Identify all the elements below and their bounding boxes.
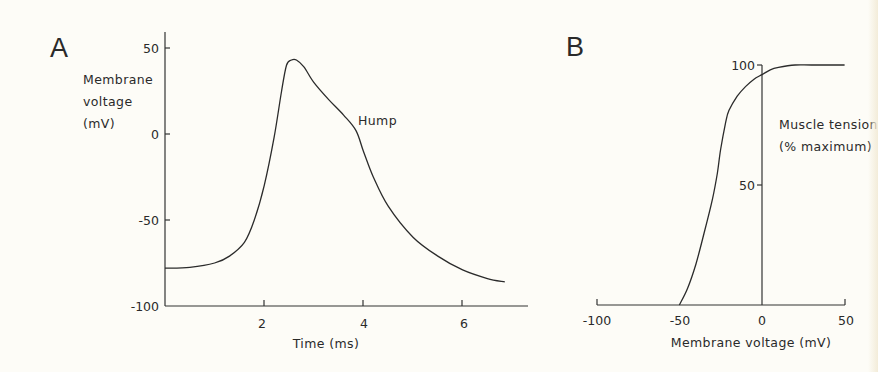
panel-b-letter: B: [566, 32, 584, 62]
panel-b-ytick-100: 100: [731, 58, 755, 73]
panel-a-xlabel: Time (ms): [292, 336, 360, 351]
panel-a-ytick-0: 0: [151, 127, 159, 142]
panel-b-ylabel: Muscle tension (% maximum): [779, 117, 878, 154]
panel-a-xtick-2: 2: [258, 316, 266, 331]
panel-a-ytick-50: 50: [143, 41, 159, 56]
panel-a-ylabel-line-3: (mV): [83, 116, 115, 131]
panel-a-letter: A: [50, 33, 68, 63]
panel-a-ylabel: Membrane voltage (mV): [83, 72, 153, 131]
panel-a-ytick-minus-100: -100: [131, 299, 159, 314]
panel-a-ytick-minus-50: -50: [139, 213, 159, 228]
panel-a-ylabel-line-1: Membrane: [83, 72, 153, 87]
hump-annotation: Hump: [358, 113, 397, 128]
panel-b-ylabel-line-2: (% maximum): [779, 139, 872, 154]
panel-b-ytick-50: 50: [739, 178, 755, 193]
panel-b-xlabel: Membrane voltage (mV): [671, 335, 832, 350]
panel-b: B -100 -50 0 50 100 50 Membrane voltage …: [566, 32, 878, 350]
panel-b-xtick-0: 0: [758, 313, 766, 328]
panel-b-x-ticks: -100 -50 0 50: [583, 299, 854, 328]
panel-b-ylabel-line-1: Muscle tension: [779, 117, 878, 132]
page-edge-shadow: [868, 0, 878, 372]
panel-a-x-ticks: 2 4 6: [258, 300, 468, 331]
panel-a-ylabel-line-2: voltage: [83, 94, 133, 109]
figure: A Membrane voltage (mV) 50 0 -50 -100 2 …: [0, 0, 878, 372]
panel-a-xtick-6: 6: [460, 316, 468, 331]
action-potential-curve: [165, 59, 505, 282]
panel-b-xtick-minus-50: -50: [670, 313, 690, 328]
panel-b-xtick-50: 50: [838, 313, 854, 328]
panel-a-xtick-4: 4: [360, 316, 368, 331]
panel-b-xtick-minus-100: -100: [583, 313, 611, 328]
panel-a: A Membrane voltage (mV) 50 0 -50 -100 2 …: [50, 32, 528, 351]
panel-b-y-ticks: 100 50: [731, 58, 762, 193]
